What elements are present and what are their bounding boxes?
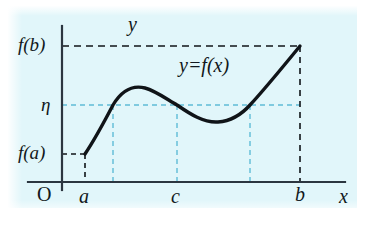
x-axis-label: x [339, 186, 348, 206]
y-tick-label-fb: f(b) [18, 35, 45, 54]
guide-lines-blue [62, 105, 300, 182]
x-tick-label-b: b [295, 184, 305, 204]
x-tick-label-a: a [79, 186, 89, 206]
y-tick-label-fa: f(a) [18, 143, 45, 162]
figure-root: y x O f(b) η f(a) a c b y=f(x) [0, 0, 365, 226]
graph-canvas [0, 0, 365, 226]
curve-equation-label: y=f(x) [179, 55, 229, 75]
x-tick-label-c: c [171, 186, 180, 206]
y-axis-label: y [128, 14, 137, 34]
y-tick-label-eta: η [41, 95, 50, 114]
origin-label: O [37, 184, 51, 204]
